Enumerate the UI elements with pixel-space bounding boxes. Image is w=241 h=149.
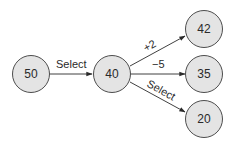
node-20: 20: [186, 101, 223, 138]
node-40: 40: [94, 56, 131, 93]
node-label: 42: [197, 22, 211, 36]
edge-label-minus5: −5: [152, 58, 165, 70]
node-label: 50: [24, 67, 38, 81]
node-label: 40: [105, 67, 119, 81]
diagram-canvas: Select +2 −5 Select 50 40 42 35 20: [0, 0, 241, 149]
edge-label-plus2: +2: [141, 37, 158, 54]
node-label: 35: [197, 67, 211, 81]
node-35: 35: [186, 56, 223, 93]
node-label: 20: [197, 112, 211, 126]
edge-label-select-1: Select: [56, 58, 87, 70]
node-42: 42: [186, 11, 223, 48]
node-50: 50: [13, 56, 50, 93]
